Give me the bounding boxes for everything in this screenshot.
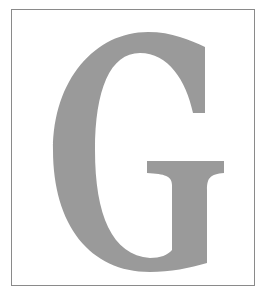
letter-g-glyph — [0, 0, 268, 295]
